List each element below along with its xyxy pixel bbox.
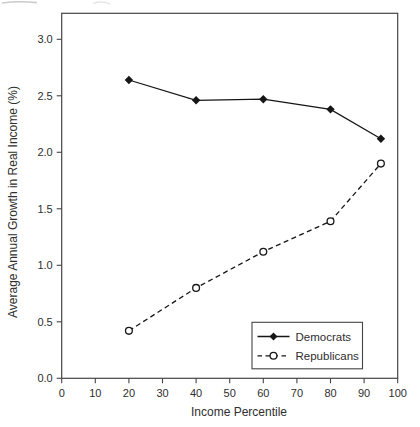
- open-circle-marker-republicans: [327, 218, 334, 225]
- y-tick-label: 0.5: [37, 316, 52, 328]
- y-tick-label: 2.0: [37, 146, 52, 158]
- x-tick-label: 60: [257, 387, 269, 399]
- legend-open-circle-icon: [270, 352, 277, 359]
- x-tick-label: 50: [224, 387, 236, 399]
- plot-area: 01020304050607080901000.00.51.01.52.02.5…: [37, 13, 406, 399]
- income-growth-line-chart: 01020304050607080901000.00.51.01.52.02.5…: [0, 0, 420, 427]
- legend-label-republicans: Republicans: [296, 350, 360, 362]
- filled-diamond-marker-democrats: [326, 105, 334, 113]
- legend-label-democrats: Democrats: [296, 331, 352, 343]
- filled-diamond-marker-democrats: [192, 96, 200, 104]
- open-circle-marker-republicans: [193, 284, 200, 291]
- open-circle-marker-republicans: [378, 160, 385, 167]
- x-tick-label: 90: [358, 387, 370, 399]
- x-tick-label: 100: [389, 387, 407, 399]
- x-tick-label: 80: [324, 387, 336, 399]
- smudge-mark: [93, 2, 110, 4]
- filled-diamond-marker-democrats: [377, 135, 385, 143]
- series-line-republicans: [129, 164, 381, 331]
- x-tick-label: 40: [190, 387, 202, 399]
- x-tick-label: 10: [89, 387, 101, 399]
- x-axis-label: Income Percentile: [191, 405, 287, 419]
- filled-diamond-marker-democrats: [125, 76, 133, 84]
- smudge-mark: [2, 2, 37, 3]
- legend: DemocratsRepublicans: [252, 322, 363, 369]
- legend-box: [252, 322, 363, 369]
- x-tick-label: 30: [156, 387, 168, 399]
- x-tick-label: 70: [291, 387, 303, 399]
- series-line-democrats: [129, 80, 381, 139]
- y-tick-label: 3.0: [37, 33, 52, 45]
- y-tick-label: 1.0: [37, 259, 52, 271]
- y-tick-label: 0.0: [37, 372, 52, 384]
- open-circle-marker-republicans: [260, 248, 267, 255]
- x-tick-label: 20: [123, 387, 135, 399]
- y-tick-label: 1.5: [37, 203, 52, 215]
- x-tick-label: 0: [59, 387, 65, 399]
- scan-artifacts: [2, 2, 110, 4]
- figure: 01020304050607080901000.00.51.01.52.02.5…: [0, 0, 420, 427]
- y-tick-label: 2.5: [37, 90, 52, 102]
- filled-diamond-marker-democrats: [259, 95, 267, 103]
- open-circle-marker-republicans: [125, 327, 132, 334]
- y-axis-label: Average Annual Growth in Real Income (%): [6, 86, 20, 318]
